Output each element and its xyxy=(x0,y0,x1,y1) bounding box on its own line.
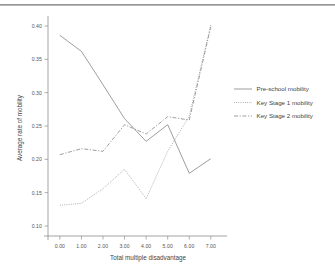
x-tick-label: 2.00 xyxy=(98,243,108,249)
y-axis-ticks: 0.100.150.200.250.300.350.40 xyxy=(32,23,48,229)
caption-partial-text xyxy=(0,269,335,276)
y-tick-label: 0.40 xyxy=(32,23,42,29)
x-tick-label: 5.00 xyxy=(163,243,173,249)
y-tick-label: 0.25 xyxy=(32,123,42,129)
legend-label: Pre-school mobility xyxy=(257,85,310,92)
y-tick-label: 0.30 xyxy=(32,90,42,96)
series-group xyxy=(60,25,211,206)
x-tick-label: 1.00 xyxy=(76,243,86,249)
y-tick-label: 0.10 xyxy=(32,223,42,229)
series-line-pre-school-mobility xyxy=(60,35,211,173)
y-tick-label: 0.15 xyxy=(32,190,42,196)
line-chart: 0.100.150.200.250.300.350.40 0.001.002.0… xyxy=(0,0,335,276)
x-tick-label: 3.00 xyxy=(119,243,129,249)
x-axis-title: Total multiple disadvantage xyxy=(110,254,186,262)
figure-container: 0.100.150.200.250.300.350.40 0.001.002.0… xyxy=(0,0,335,276)
y-axis-title: Average rate of mobility xyxy=(16,94,24,161)
x-tick-label: 6.00 xyxy=(184,243,194,249)
y-tick-label: 0.20 xyxy=(32,156,42,162)
series-line-key-stage-1-mobility xyxy=(60,25,211,206)
series-line-key-stage-2-mobility xyxy=(60,27,211,155)
legend-label: Key Stage 2 mobility xyxy=(257,112,314,119)
legend-label: Key Stage 1 mobility xyxy=(257,99,314,106)
x-axis-ticks: 0.001.002.003.004.005.006.007.00 xyxy=(55,236,216,249)
x-tick-label: 4.00 xyxy=(141,243,151,249)
x-tick-label: 0.00 xyxy=(55,243,65,249)
y-tick-label: 0.35 xyxy=(32,56,42,62)
x-tick-label: 7.00 xyxy=(206,243,216,249)
chart-legend: Pre-school mobilityKey Stage 1 mobilityK… xyxy=(234,85,314,119)
